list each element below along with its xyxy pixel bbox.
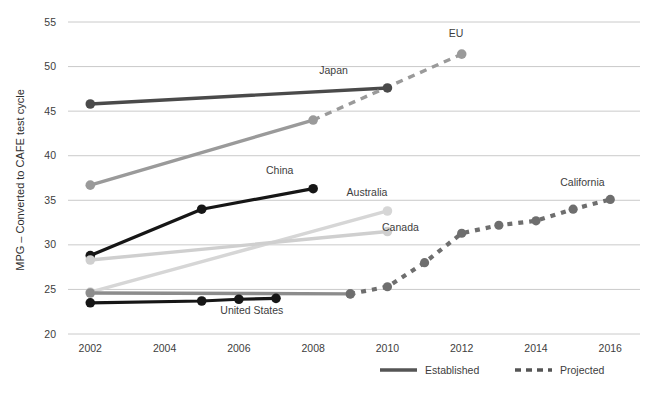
x-tick-label: 2002	[79, 342, 103, 354]
data-point-marker	[569, 205, 578, 214]
data-point-marker	[457, 49, 467, 59]
legend-label-projected: Projected	[560, 364, 605, 376]
data-point-marker	[383, 206, 393, 216]
y-axis-tick-labels: 2025303540455055	[44, 16, 56, 340]
data-point-marker	[457, 229, 466, 238]
x-tick-label: 2014	[524, 342, 548, 354]
data-point-marker	[346, 289, 355, 298]
x-axis-tick-labels: 20022004200620082010201220142016	[79, 342, 623, 354]
y-tick-label: 25	[44, 283, 56, 295]
series-lines	[90, 54, 610, 303]
data-point-marker	[85, 288, 95, 298]
series-label-australia: Australia	[347, 186, 388, 198]
series-labels: JapanEUChinaAustraliaCanadaUnited States…	[220, 27, 604, 316]
chart-legend: EstablishedProjected	[380, 364, 605, 376]
data-point-marker	[85, 298, 95, 308]
data-point-marker	[85, 99, 95, 109]
x-tick-label: 2006	[227, 342, 251, 354]
series-label-eu: EU	[449, 27, 464, 39]
data-point-marker	[420, 258, 429, 267]
y-tick-label: 55	[44, 16, 56, 28]
series-label-japan: Japan	[319, 64, 348, 76]
series-label-china: China	[266, 164, 294, 176]
series-line-australia	[90, 211, 387, 292]
data-point-marker	[85, 180, 95, 190]
data-point-marker	[383, 282, 392, 291]
data-point-marker	[271, 294, 281, 304]
y-tick-label: 40	[44, 149, 56, 161]
x-tick-label: 2004	[153, 342, 177, 354]
data-point-marker	[383, 83, 393, 93]
x-tick-label: 2016	[599, 342, 623, 354]
x-tick-label: 2010	[376, 342, 400, 354]
data-point-marker	[308, 184, 318, 194]
y-axis-title: MPG – Converted to CAFE test cycle	[14, 89, 26, 271]
data-point-marker	[234, 294, 244, 304]
series-label-california: California	[560, 176, 605, 188]
series-label-canada: Canada	[382, 221, 419, 233]
data-point-marker	[308, 115, 318, 125]
line-chart: 2025303540455055 20022004200620082010201…	[0, 0, 652, 394]
y-tick-label: 50	[44, 60, 56, 72]
series-line-united-states-established-gray	[90, 293, 350, 294]
legend-label-established: Established	[425, 364, 479, 376]
data-point-marker	[606, 195, 615, 204]
y-tick-label: 35	[44, 194, 56, 206]
series-label-united-states: United States	[220, 304, 283, 316]
data-point-marker	[197, 204, 207, 214]
y-tick-label: 20	[44, 328, 56, 340]
data-point-marker	[494, 221, 503, 230]
y-tick-label: 30	[44, 238, 56, 250]
data-point-marker	[85, 255, 95, 265]
x-tick-label: 2012	[450, 342, 474, 354]
series-markers	[85, 49, 614, 307]
data-point-marker	[531, 216, 540, 225]
series-line-united-states	[90, 298, 276, 302]
data-point-marker	[197, 296, 207, 306]
chart-container: 2025303540455055 20022004200620082010201…	[0, 0, 652, 394]
gridlines	[68, 22, 640, 334]
y-tick-label: 45	[44, 105, 56, 117]
series-line-japan	[90, 88, 387, 104]
x-tick-label: 2008	[301, 342, 325, 354]
series-line-china	[90, 189, 313, 256]
